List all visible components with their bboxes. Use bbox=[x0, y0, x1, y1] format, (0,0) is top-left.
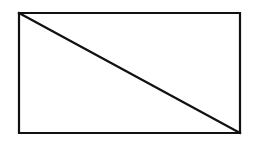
rectangle-diagram bbox=[0, 0, 255, 147]
figure-canvas bbox=[0, 0, 255, 147]
